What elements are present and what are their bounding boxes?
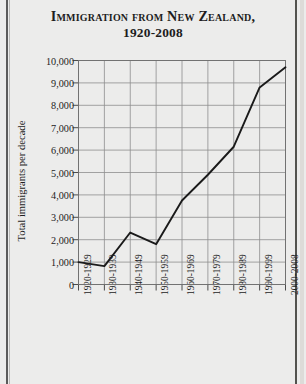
chart-plot-container: Total immigrants per decade 01,0002,0003…	[0, 0, 306, 384]
chart-page: Immigration from New Zealand, 1920-2008 …	[0, 0, 306, 384]
line-chart-svg	[0, 0, 306, 384]
